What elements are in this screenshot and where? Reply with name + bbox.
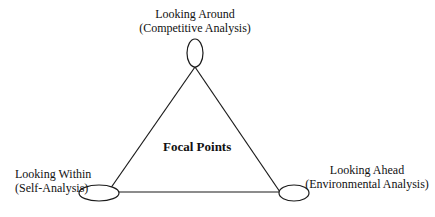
node-right-title: Looking Ahead: [304, 163, 430, 177]
node-left-subtitle: (Self-Analysis): [15, 181, 91, 195]
node-right-label: Looking Ahead (Environmental Analysis): [304, 163, 430, 191]
node-top-subtitle: (Competitive Analysis): [138, 21, 252, 35]
node-top-title: Looking Around: [138, 7, 252, 21]
edge-top-left: [108, 67, 195, 192]
node-top-ellipse: [187, 39, 203, 67]
edge-top-right: [195, 67, 280, 192]
node-right-subtitle: (Environmental Analysis): [304, 177, 430, 191]
node-left-title: Looking Within: [15, 167, 91, 181]
node-top-label: Looking Around (Competitive Analysis): [138, 7, 252, 35]
node-left-label: Looking Within (Self-Analysis): [15, 167, 91, 195]
center-label: Focal Points: [163, 139, 231, 155]
